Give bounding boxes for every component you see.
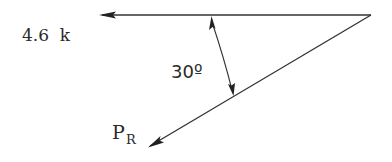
angle-arc-path xyxy=(212,22,232,90)
resultant-label-main: P xyxy=(112,121,125,143)
angle-arc-top-arrowhead-icon xyxy=(209,16,216,30)
angle-arc xyxy=(209,16,235,96)
angle-arc-bottom-arrowhead-icon xyxy=(228,83,235,96)
vector-diagram: 4.6 k 30º P R xyxy=(0,0,392,162)
force-vector-4-6k xyxy=(99,12,371,19)
angle-label: 30º xyxy=(171,61,202,82)
resultant-vector-arrowhead-icon xyxy=(148,136,164,148)
force-magnitude-label: 4.6 k xyxy=(22,25,71,45)
resultant-label: P R xyxy=(112,121,137,147)
resultant-label-subscript: R xyxy=(126,132,137,147)
